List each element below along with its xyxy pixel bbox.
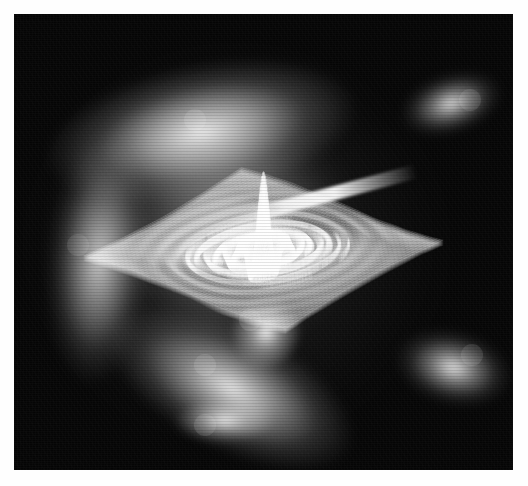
surface-mesh [14,14,513,470]
plot-canvas [14,14,513,470]
figure-root [0,0,528,486]
